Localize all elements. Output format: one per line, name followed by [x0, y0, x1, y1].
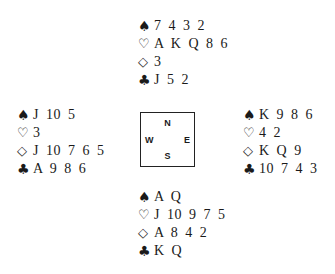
west-hand: ♠ J 10 5 ♡ 3 ◇ J 10 7 6 5 ♣ A 9 8 6: [17, 106, 104, 178]
west-clubs-row: ♣ A 9 8 6: [17, 160, 104, 178]
heart-icon: ♡: [138, 206, 154, 224]
compass-box: N W E S: [140, 112, 195, 167]
club-icon: ♣: [17, 160, 33, 178]
spade-icon: ♠: [17, 106, 33, 124]
north-clubs-cards: J 5 2: [154, 71, 189, 89]
south-hand: ♠ A Q ♡ J 10 9 7 5 ◇ A 8 4 2 ♣ K Q: [138, 188, 225, 260]
south-hearts-row: ♡ J 10 9 7 5: [138, 206, 225, 224]
heart-icon: ♡: [243, 124, 259, 142]
north-diamonds-cards: 3: [154, 53, 162, 71]
west-diamonds-row: ◇ J 10 7 6 5: [17, 142, 104, 160]
club-icon: ♣: [138, 71, 154, 89]
north-spades-cards: 7 4 3 2: [154, 17, 205, 35]
east-clubs-row: ♣ 10 7 4 3: [243, 160, 318, 178]
spade-icon: ♠: [243, 106, 259, 124]
north-clubs-row: ♣ J 5 2: [138, 71, 228, 89]
spade-icon: ♠: [138, 17, 154, 35]
south-spades-row: ♠ A Q: [138, 188, 225, 206]
south-spades-cards: A Q: [154, 188, 181, 206]
west-hearts-row: ♡ 3: [17, 124, 104, 142]
club-icon: ♣: [243, 160, 259, 178]
east-spades-cards: K 9 8 6: [259, 106, 313, 124]
east-clubs-cards: 10 7 4 3: [259, 160, 318, 178]
diamond-icon: ◇: [138, 224, 154, 242]
north-spades-row: ♠ 7 4 3 2: [138, 17, 228, 35]
east-diamonds-cards: K Q 9: [259, 142, 302, 160]
north-diamonds-row: ◇ 3: [138, 53, 228, 71]
north-hand: ♠ 7 4 3 2 ♡ A K Q 8 6 ◇ 3 ♣ J 5 2: [138, 17, 228, 89]
north-hearts-row: ♡ A K Q 8 6: [138, 35, 228, 53]
compass-north-label: N: [164, 118, 171, 128]
diamond-icon: ◇: [243, 142, 259, 160]
heart-icon: ♡: [17, 124, 33, 142]
spade-icon: ♠: [138, 188, 154, 206]
diamond-icon: ◇: [138, 53, 154, 71]
east-hearts-row: ♡ 4 2: [243, 124, 318, 142]
north-hearts-cards: A K Q 8 6: [154, 35, 228, 53]
east-hearts-cards: 4 2: [259, 124, 281, 142]
compass-south-label: S: [164, 151, 170, 161]
compass-east-label: E: [184, 135, 190, 145]
south-clubs-cards: K Q: [154, 242, 182, 260]
diamond-icon: ◇: [17, 142, 33, 160]
compass-west-label: W: [145, 135, 154, 145]
south-hearts-cards: J 10 9 7 5: [154, 206, 225, 224]
west-diamonds-cards: J 10 7 6 5: [33, 142, 104, 160]
west-spades-row: ♠ J 10 5: [17, 106, 104, 124]
south-diamonds-row: ◇ A 8 4 2: [138, 224, 225, 242]
west-hearts-cards: 3: [33, 124, 41, 142]
heart-icon: ♡: [138, 35, 154, 53]
west-spades-cards: J 10 5: [33, 106, 75, 124]
club-icon: ♣: [138, 242, 154, 260]
east-spades-row: ♠ K 9 8 6: [243, 106, 318, 124]
east-hand: ♠ K 9 8 6 ♡ 4 2 ◇ K Q 9 ♣ 10 7 4 3: [243, 106, 318, 178]
south-diamonds-cards: A 8 4 2: [154, 224, 207, 242]
south-clubs-row: ♣ K Q: [138, 242, 225, 260]
east-diamonds-row: ◇ K Q 9: [243, 142, 318, 160]
west-clubs-cards: A 9 8 6: [33, 160, 86, 178]
